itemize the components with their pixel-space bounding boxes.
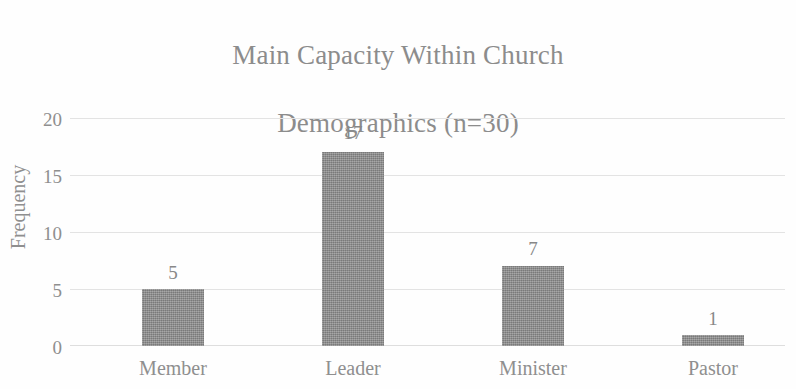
y-tick-label-15: 15 <box>14 167 62 187</box>
bar-leader[interactable] <box>322 152 384 346</box>
gridline-15 <box>70 175 785 176</box>
y-tick-label-0: 0 <box>14 338 62 358</box>
value-label-minister: 7 <box>498 238 568 260</box>
bar-member[interactable] <box>142 289 204 346</box>
x-tick-label-member: Member <box>93 356 253 380</box>
bar-chart-figure: Main Capacity Within Church Demographics… <box>0 0 796 389</box>
x-tick-label-minister: Minister <box>453 356 613 380</box>
y-tick-label-10: 10 <box>14 224 62 244</box>
gridline-10 <box>70 232 785 233</box>
y-tick-label-20: 20 <box>14 110 62 130</box>
y-tick-label-5: 5 <box>14 281 62 301</box>
x-tick-label-pastor: Pastor <box>633 356 793 380</box>
value-label-member: 5 <box>138 262 208 284</box>
chart-title-line-1: Main Capacity Within Church <box>232 40 564 70</box>
gridline-20 <box>70 118 785 119</box>
x-tick-label-leader: Leader <box>273 356 433 380</box>
y-axis-ticks: 20 15 10 5 0 <box>10 118 62 346</box>
value-label-leader: 17 <box>318 122 388 144</box>
value-label-pastor: 1 <box>678 308 748 330</box>
bar-pastor[interactable] <box>682 335 744 346</box>
bar-minister[interactable] <box>502 266 564 346</box>
